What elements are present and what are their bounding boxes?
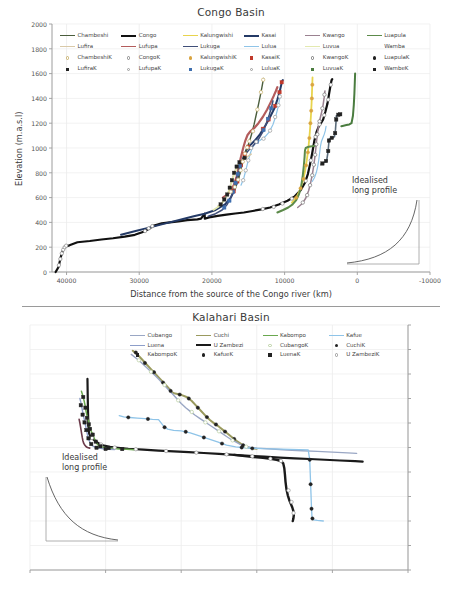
knickpoint-marker [247,159,250,162]
legend-item-cuchi[interactable]: Cuchi [196,331,262,341]
legend-label: WambeK [384,66,408,72]
legend-item-kasaik[interactable]: KasaiK [244,52,305,63]
knickpoint-marker [176,399,179,402]
knickpoint-marker [223,198,226,201]
knickpoint-marker [321,107,324,110]
legend-item-kabompok[interactable]: KabompoK [130,350,196,360]
legend-item-luvua[interactable]: Luvua [305,41,366,52]
legend-marker-icon [329,344,344,347]
legend-item-luapula[interactable]: Luapula [367,30,428,41]
series-cubango [131,354,356,453]
knickpoint-marker [279,459,282,462]
knickpoint-marker [323,113,326,116]
legend-item-u-zambezik[interactable]: U ZambeziK [329,350,395,360]
legend-item-kafue[interactable]: Kafue [329,331,395,341]
knickpoint-marker [223,430,226,433]
legend-item-kalungwishik[interactable]: KalungwishiK [183,52,244,63]
knickpoint-marker [233,185,236,188]
legend-item-lufirak[interactable]: LufiraK [60,64,121,75]
knickpoint-marker [292,511,295,514]
knickpoint-marker [164,449,167,452]
legend-label: Kalungwishi [200,33,233,39]
legend-item-kwango[interactable]: Kwango [305,30,366,41]
legend-item-cuchik[interactable]: CuchiK [329,341,395,351]
knickpoint-marker [306,151,309,154]
legend-item-congok[interactable]: CongoK [121,52,182,63]
congo-legend: ChambeshiCongoKalungwishiKasaiKwangoLuap… [60,30,428,75]
legend-item-kalungwishi[interactable]: Kalungwishi [183,30,244,41]
legend-label: KwangoK [323,55,348,61]
knickpoint-marker [243,156,246,159]
legend-item-chambeshi[interactable]: Chambeshi [60,30,121,41]
legend-line-swatch [329,335,344,336]
legend-item-chambeshik[interactable]: ChambeshiK [60,52,121,63]
knickpoint-marker [149,370,152,373]
legend-item-lufupak[interactable]: LufupaK [121,64,182,75]
legend-label: LuapulaK [384,55,409,61]
legend-item-u-zambezi[interactable]: U Zambezi [196,341,262,351]
legend-marker-icon [130,353,145,356]
x-tick-label: 40000 [45,277,89,284]
knickpoint-marker [311,174,314,177]
legend-item-lukuga[interactable]: Lukuga [183,41,244,52]
legend-label: CuchiK [346,343,365,349]
knickpoint-marker [295,196,298,199]
knickpoint-marker [235,165,238,168]
legend-item-lulua[interactable]: Lulua [244,41,305,52]
y-tick-label: 2000 [0,21,47,28]
knickpoint-marker [273,115,276,118]
knickpoint-marker [195,451,198,454]
knickpoint-marker [228,186,231,189]
legend-item-wamba[interactable]: Wamba [367,41,428,52]
knickpoint-marker [330,136,333,139]
legend-item-luapulak[interactable]: LuapulaK [367,52,428,63]
legend-label: ChambeshiK [78,55,112,61]
legend-line-swatch [130,335,145,336]
legend-label: Cuchi [214,333,229,339]
inset-annotation: Idealisedlong profile [352,176,397,196]
legend-label: CongoK [139,55,160,61]
legend-marker-icon [305,56,320,59]
series-congo [56,79,333,272]
knickpoint-marker [287,489,290,492]
legend-label: Lukuga [200,44,220,50]
knickpoint-marker [143,229,146,232]
legend-line-swatch [121,35,136,37]
legend-item-luenak[interactable]: LuenaK [263,350,329,360]
knickpoint-marker [316,133,319,136]
legend-item-cubangok[interactable]: CubangoK [263,341,329,351]
knickpoint-marker [335,118,338,121]
knickpoint-marker [268,129,271,132]
legend-label: LuvuaK [323,66,343,72]
knickpoint-marker [232,171,235,174]
legend-item-luena[interactable]: Luena [130,341,196,351]
legend-item-kwangok[interactable]: KwangoK [305,52,366,63]
knickpoint-marker [151,224,154,227]
legend-item-lukugak[interactable]: LukugaK [183,64,244,75]
knickpoint-marker [225,193,228,196]
knickpoint-marker [278,91,281,94]
legend-item-wambek[interactable]: WambeK [367,64,428,75]
knickpoint-marker [85,416,88,419]
knickpoint-marker [234,181,237,184]
legend-label: LufiraK [78,66,97,72]
knickpoint-marker [238,164,241,167]
legend-line-swatch [244,46,259,47]
legend-item-kafuek[interactable]: KafueK [196,350,262,360]
legend-line-swatch [130,345,145,346]
legend-line-swatch [196,344,211,346]
knickpoint-marker [308,458,311,461]
legend-item-congo[interactable]: Congo [121,30,182,41]
legend-item-cubango[interactable]: Cubango [130,331,196,341]
legend-item-lufupa[interactable]: Lufupa [121,41,182,52]
knickpoint-marker [90,442,93,445]
legend-item-kabompo[interactable]: Kabompo [263,331,329,341]
knickpoint-marker [59,257,62,260]
legend-item-luluak[interactable]: LuluaK [244,64,305,75]
knickpoint-marker [230,179,233,182]
knickpoint-marker [85,428,88,431]
legend-label: Kasai [261,33,276,39]
legend-item-lufira[interactable]: Lufira [60,41,121,52]
legend-item-kasai[interactable]: Kasai [244,30,305,41]
legend-item-luvuak[interactable]: LuvuaK [305,64,366,75]
